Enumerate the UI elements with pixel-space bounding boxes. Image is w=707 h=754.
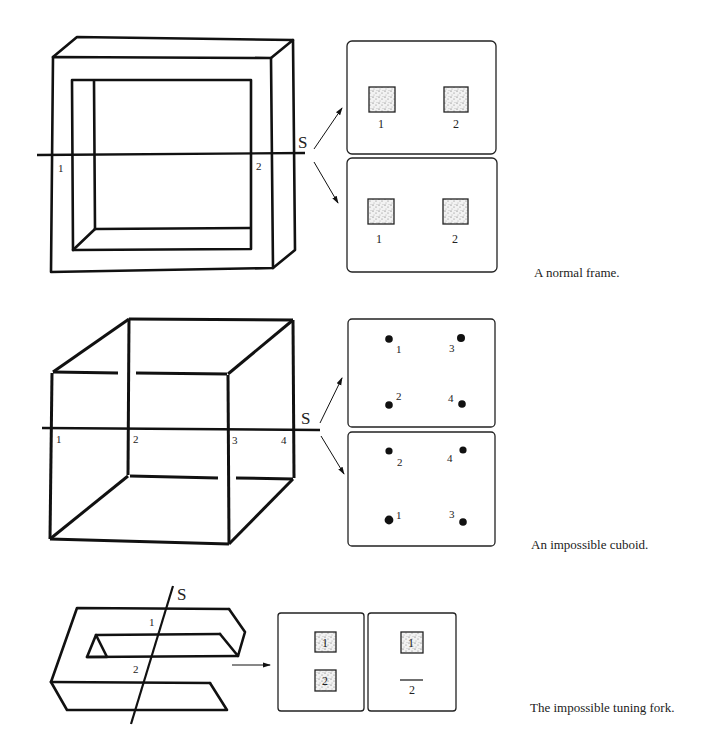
section-view-box: 1 2 [368, 613, 456, 711]
arrow-icon [314, 108, 342, 149]
section-view-box: 1 2 [278, 613, 364, 711]
dot-marker [458, 400, 466, 408]
arrow-icon [321, 436, 344, 474]
svg-text:1: 1 [396, 509, 402, 521]
stippled-marker [444, 87, 468, 112]
svg-text:1: 1 [376, 232, 382, 246]
dot-marker [459, 518, 467, 526]
dot-marker [385, 447, 392, 454]
section-view-box: 2 4 1 3 [348, 432, 495, 546]
svg-text:2: 2 [409, 683, 415, 697]
svg-text:3: 3 [449, 342, 455, 354]
diagram-canvas: S 1 2 1 2 1 2 [0, 0, 707, 754]
intersection-label: 4 [281, 434, 287, 446]
dot-marker [385, 335, 393, 343]
arrow-icon [314, 162, 338, 203]
section-label: S [298, 133, 307, 152]
figure-caption: An impossible cuboid. [531, 537, 648, 553]
stippled-marker [368, 199, 394, 224]
svg-text:4: 4 [448, 392, 454, 404]
svg-text:1: 1 [322, 636, 328, 650]
section-label: S [301, 409, 310, 428]
figure-caption: A normal frame. [534, 265, 620, 281]
dot-marker [459, 446, 466, 453]
section-view-box: 1 2 [347, 158, 497, 272]
intersection-label: 1 [56, 433, 62, 445]
intersection-label: 2 [133, 433, 139, 445]
svg-text:1: 1 [396, 343, 402, 355]
intersection-label: 1 [58, 162, 64, 174]
section-line [37, 153, 305, 155]
impossible-cuboid-drawing [50, 319, 294, 544]
svg-text:2: 2 [322, 674, 328, 688]
intersection-label: 3 [232, 434, 238, 446]
intersection-label: 2 [256, 160, 262, 172]
dot-marker [385, 401, 393, 409]
svg-text:3: 3 [449, 508, 455, 520]
intersection-label: 2 [133, 663, 139, 675]
svg-text:4: 4 [447, 452, 453, 464]
dot-marker [385, 516, 394, 525]
figure-caption: The impossible tuning fork. [530, 700, 674, 716]
svg-text:2: 2 [452, 232, 458, 246]
intersection-label: 1 [149, 616, 155, 628]
svg-text:2: 2 [397, 456, 403, 468]
svg-text:1: 1 [378, 117, 384, 131]
svg-text:1: 1 [408, 636, 414, 650]
section-view-box: 1 2 [347, 41, 496, 154]
stippled-marker [369, 87, 395, 112]
impossible-tuning-fork-drawing [51, 608, 245, 710]
svg-text:2: 2 [396, 390, 402, 402]
dot-marker [457, 334, 465, 342]
arrow-icon [320, 378, 342, 423]
svg-text:2: 2 [453, 117, 459, 131]
section-view-box: 1 3 2 4 [348, 319, 495, 427]
stippled-marker [443, 199, 468, 224]
section-label: S [177, 585, 186, 604]
section-line [42, 428, 320, 430]
section-line [131, 586, 173, 724]
